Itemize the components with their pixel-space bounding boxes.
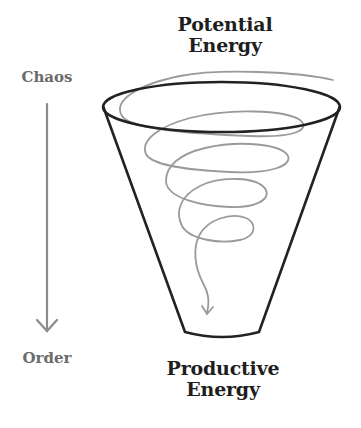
bottom-label-line1: Productive [148,358,298,379]
bottom-label-line2: Energy [148,379,298,400]
bottom-label: Productive Energy [148,358,298,400]
funnel-shape [103,82,340,337]
spiral-path [120,72,333,313]
chaos-to-order-arrow-icon [37,104,57,331]
